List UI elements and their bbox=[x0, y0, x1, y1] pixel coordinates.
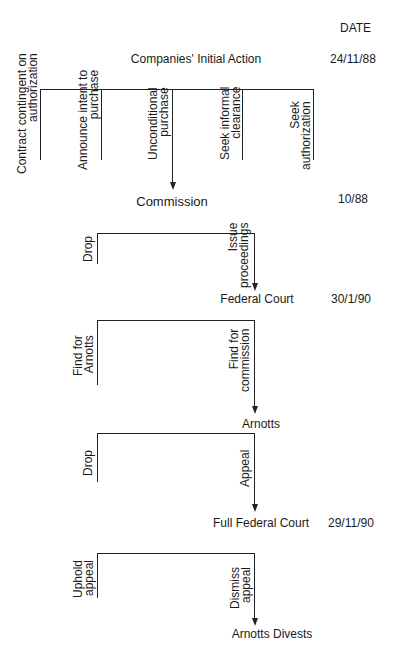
branch-line-unconditional-purchase bbox=[172, 89, 173, 184]
label-line: appeal bbox=[241, 567, 252, 609]
label-line: appeal bbox=[84, 560, 95, 598]
branch-line-issue-proceedings bbox=[254, 233, 255, 286]
label-line: Arnotts bbox=[84, 335, 95, 376]
arrow-down-icon bbox=[252, 618, 258, 626]
arrow-down-icon bbox=[252, 283, 258, 291]
branch-bar-full-federal-court bbox=[97, 553, 255, 554]
branch-label-appeal: Appeal bbox=[240, 450, 251, 487]
arrow-down-icon bbox=[252, 406, 258, 414]
label-line: authorization bbox=[301, 101, 312, 170]
branch-label-drop-2: Drop bbox=[83, 450, 94, 476]
branch-label-seek-informal-clearance: Seek informal clearance bbox=[220, 87, 242, 160]
label-line: purchase bbox=[89, 70, 100, 170]
branch-line-find-for-arnotts bbox=[97, 320, 98, 385]
node-arnotts-divests: Arnotts Divests bbox=[232, 627, 313, 641]
branch-line-appeal bbox=[254, 433, 255, 507]
branch-line-dismiss-appeal bbox=[254, 553, 255, 622]
branch-line-find-for-commission bbox=[254, 320, 255, 410]
label-line: proceedings bbox=[239, 223, 250, 288]
branch-line-uphold-appeal bbox=[97, 553, 98, 598]
branch-label-issue-proceedings: Issue proceedings bbox=[228, 223, 250, 288]
branch-line-contract-contingent bbox=[40, 89, 41, 160]
arrow-down-icon bbox=[170, 182, 176, 190]
branch-label-announce-intent: Announce intent to purchase bbox=[78, 70, 100, 170]
label-line: authorization bbox=[28, 53, 39, 174]
label-line: Drop bbox=[83, 236, 94, 262]
node-full-federal-court: Full Federal Court bbox=[213, 516, 309, 530]
branch-label-unconditional-purchase: Unconditional purchase bbox=[148, 87, 170, 160]
node-federal-court: Federal Court bbox=[220, 292, 293, 306]
node-commission: Commission bbox=[136, 194, 208, 209]
branch-bar-federal-court bbox=[97, 320, 255, 321]
arrow-down-icon bbox=[252, 504, 258, 512]
label-line: commission bbox=[240, 329, 251, 392]
branch-label-contract-contingent: Contract contingent on authorization bbox=[17, 53, 39, 174]
branch-bar-arnotts bbox=[97, 433, 255, 434]
date-column-header: DATE bbox=[340, 21, 371, 35]
node-companies-initial-action: Companies' Initial Action bbox=[131, 52, 261, 66]
label-line: purchase bbox=[159, 87, 170, 160]
branch-line-drop-2 bbox=[97, 433, 98, 482]
label-line: Drop bbox=[83, 450, 94, 476]
branch-line-announce-intent bbox=[101, 89, 102, 160]
label-line: Appeal bbox=[240, 450, 251, 487]
date-10-88: 10/88 bbox=[338, 192, 368, 206]
date-29-11-90: 29/11/90 bbox=[328, 516, 374, 530]
date-30-1-90: 30/1/90 bbox=[331, 292, 371, 306]
branch-line-seek-authorization bbox=[313, 89, 314, 160]
branch-label-dismiss-appeal: Dismiss appeal bbox=[230, 567, 252, 609]
branch-label-uphold-appeal: Uphold appeal bbox=[73, 560, 95, 598]
label-line: clearance bbox=[231, 87, 242, 160]
node-arnotts: Arnotts bbox=[242, 417, 280, 431]
branch-line-drop bbox=[97, 233, 98, 264]
branch-label-find-for-commission: Find for commission bbox=[229, 329, 251, 392]
branch-label-seek-authorization: Seek authorization bbox=[290, 101, 312, 170]
branch-label-find-for-arnotts: Find for Arnotts bbox=[73, 335, 95, 376]
date-24-11-88: 24/11/88 bbox=[330, 52, 376, 66]
branch-label-drop: Drop bbox=[83, 236, 94, 262]
